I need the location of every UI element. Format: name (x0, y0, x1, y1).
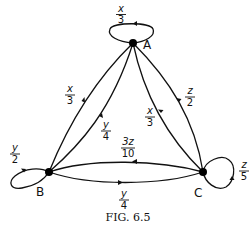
svg-text:3: 3 (147, 117, 153, 128)
node-B: B (36, 168, 53, 199)
edge-B-C: y 4 (49, 172, 203, 211)
edge-A-B: x 3 (49, 43, 133, 172)
node-C: C (194, 168, 207, 200)
svg-text:y: y (102, 119, 110, 130)
svg-text:C: C (194, 186, 202, 200)
arrow-icon (158, 110, 164, 114)
edge-B-B: y 2 (10, 142, 49, 188)
svg-text:y: y (11, 142, 19, 153)
svg-text:B: B (36, 185, 44, 199)
svg-text:10: 10 (122, 148, 135, 159)
svg-text:4: 4 (121, 200, 127, 211)
edge-C-B: 3z 10 (49, 136, 203, 172)
svg-text:5: 5 (241, 171, 247, 182)
svg-text:x: x (117, 3, 124, 14)
svg-text:x: x (66, 83, 73, 94)
svg-text:z: z (186, 85, 193, 96)
svg-text:3: 3 (118, 14, 124, 25)
svg-text:x: x (146, 105, 153, 116)
svg-text:2: 2 (187, 97, 193, 108)
svg-text:3: 3 (67, 95, 73, 106)
arrow-icon (176, 98, 182, 102)
arrow-icon (132, 159, 137, 164)
edge-C-A: z 2 (133, 43, 203, 172)
svg-text:z: z (240, 159, 247, 170)
svg-text:y: y (120, 188, 128, 199)
edge-B-A: y 4 (49, 43, 133, 172)
arrow-icon (118, 180, 123, 185)
state-transition-diagram: x 3 x 3 y 4 x 3 z 2 3z 10 (0, 0, 252, 225)
svg-text:2: 2 (12, 154, 18, 165)
edge-C-C: z 5 (203, 158, 249, 189)
svg-text:3z: 3z (122, 136, 134, 147)
arrow-icon (230, 176, 235, 180)
svg-text:A: A (143, 38, 152, 52)
edge-A-A: x 3 (110, 3, 154, 43)
svg-text:4: 4 (103, 131, 109, 142)
arrow-icon (82, 97, 86, 103)
arrow-icon (133, 21, 137, 26)
figure-caption: FIG. 6.5 (106, 211, 151, 224)
